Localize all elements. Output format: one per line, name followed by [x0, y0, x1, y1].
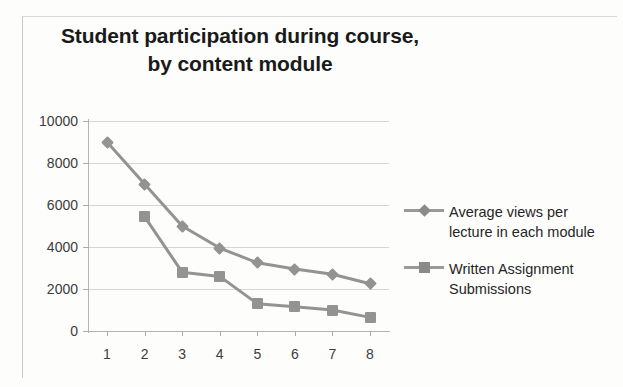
- data-point-diamond: [213, 242, 226, 255]
- y-axis-tick-mark: [83, 205, 89, 206]
- x-axis-tick-mark: [107, 331, 108, 336]
- data-point-diamond: [138, 178, 151, 191]
- chart-legend: Average views per lecture in each module…: [404, 202, 614, 316]
- legend-label-average-views: Average views per lecture in each module: [449, 204, 595, 240]
- legend-entry-average-views: Average views per lecture in each module: [404, 202, 614, 242]
- x-axis-tick-label: 6: [280, 346, 310, 362]
- x-axis-tick-label: 3: [167, 346, 197, 362]
- x-axis-tick-label: 8: [355, 346, 385, 362]
- legend-label-line-1: Average views per: [449, 204, 568, 220]
- x-axis-tick-label: 4: [205, 346, 235, 362]
- data-point-square: [365, 312, 376, 323]
- data-point-diamond: [251, 256, 264, 269]
- x-axis-tick-mark: [257, 331, 258, 336]
- x-axis-tick-mark: [182, 331, 183, 336]
- x-axis-tick-mark: [145, 331, 146, 336]
- y-axis-tick-mark: [83, 247, 89, 248]
- data-point-square: [289, 301, 300, 312]
- y-axis-tick-mark: [83, 121, 89, 122]
- data-point-diamond: [176, 220, 189, 233]
- data-point-square: [177, 267, 188, 278]
- y-axis-tick-mark: [83, 163, 89, 164]
- data-point-square: [139, 211, 150, 222]
- chart-figure: Student participation during course, by …: [0, 0, 623, 387]
- x-axis-tick-mark: [220, 331, 221, 336]
- data-point-diamond: [288, 263, 301, 276]
- square-marker-icon: [404, 266, 444, 269]
- legend-label-line-1: Written Assignment: [449, 261, 574, 277]
- diamond-marker-icon: [404, 209, 444, 212]
- legend-label-line-2: lecture in each module: [449, 224, 595, 240]
- data-point-square: [214, 271, 225, 282]
- x-axis-tick-label: 5: [242, 346, 272, 362]
- data-point-diamond: [364, 277, 377, 290]
- y-axis-tick-mark: [83, 331, 89, 332]
- data-point-square: [252, 298, 263, 309]
- legend-entry-written-assignment: Written Assignment Submissions: [404, 259, 614, 299]
- x-axis-tick-label: 1: [92, 346, 122, 362]
- data-point-square: [327, 305, 338, 316]
- x-axis-tick-mark: [295, 331, 296, 336]
- marker-layer: [0, 0, 623, 387]
- y-axis-tick-mark: [83, 289, 89, 290]
- x-axis-tick-mark: [370, 331, 371, 336]
- data-point-diamond: [101, 136, 114, 149]
- x-axis-tick-label: 7: [317, 346, 347, 362]
- x-axis-tick-label: 2: [130, 346, 160, 362]
- legend-label-line-2: Submissions: [449, 281, 531, 297]
- data-point-diamond: [326, 268, 339, 281]
- x-axis-tick-mark: [332, 331, 333, 336]
- legend-label-written-assignment: Written Assignment Submissions: [449, 261, 574, 297]
